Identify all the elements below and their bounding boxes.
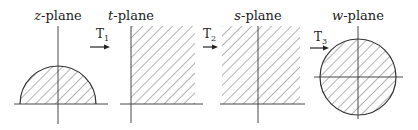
t3-label: T3 [314,30,327,46]
s-plane-panel: s-plane [220,8,305,123]
transform-t3: T3 [310,30,329,51]
t-plane-hatched-region [131,26,195,104]
w-plane-panel: w-plane [314,8,403,119]
t1-arrow-head-icon [104,45,110,50]
s-plane-title: s-plane [234,8,282,23]
z-plane-panel: z-plane [14,8,108,124]
s-plane-hatched-region [222,26,300,104]
t-plane-panel: t-plane [108,8,203,123]
w-plane-title: w-plane [332,8,384,23]
t3-arrow-head-icon [323,46,329,51]
t-plane-title: t-plane [108,8,154,23]
transform-t2: T2 [203,27,218,50]
z-plane-title: z-plane [33,8,82,23]
transform-t1: T1 [90,27,110,50]
t1-label: T1 [96,27,109,43]
conformal-map-diagram: z-plane T1 t-plane T2 s-plane T3 w-p [0,0,418,130]
t2-arrow-head-icon [212,45,218,50]
t2-label: T2 [203,27,216,43]
